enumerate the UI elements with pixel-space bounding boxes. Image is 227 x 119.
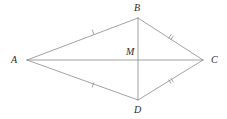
vertex-label-d: D [134, 105, 141, 115]
congruence-tick-marks-group [92, 30, 173, 87]
tick-mark-ab-1 [92, 30, 93, 34]
side-dc [138, 60, 203, 100]
kite-diagonals-group [27, 18, 203, 100]
kite-sides-group [27, 18, 203, 100]
side-bc [138, 18, 203, 60]
vertex-label-b: B [134, 3, 140, 13]
tick-mark-bc-1 [169, 35, 171, 39]
side-ab [27, 18, 138, 60]
side-ad [27, 60, 138, 100]
kite-diagram-svg [0, 0, 227, 119]
vertex-label-c: C [211, 55, 218, 65]
geometry-figure: A B C D M [0, 0, 227, 119]
vertex-label-m: M [126, 47, 134, 57]
vertex-label-a: A [11, 55, 17, 65]
tick-mark-bc-2 [171, 36, 173, 40]
